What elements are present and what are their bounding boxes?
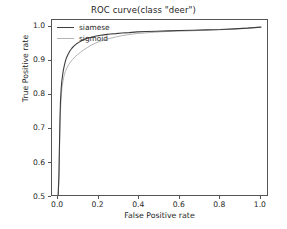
series-line-siamese bbox=[58, 27, 261, 196]
x-tick-label: 1.0 bbox=[245, 200, 275, 209]
y-tick-mark bbox=[48, 94, 51, 95]
x-tick-mark bbox=[57, 196, 58, 199]
y-tick-mark bbox=[48, 60, 51, 61]
y-tick-mark bbox=[48, 128, 51, 129]
chart-title: ROC curve(class "deer") bbox=[0, 5, 287, 15]
y-tick-label: 0.5 bbox=[19, 192, 45, 201]
legend-entry-siamese[interactable]: siamese bbox=[57, 23, 110, 32]
y-tick-mark bbox=[48, 162, 51, 163]
legend-swatch-sigmoid bbox=[57, 38, 74, 39]
plot-svg bbox=[52, 20, 268, 196]
x-axis-label: False Positive rate bbox=[51, 211, 268, 220]
legend-entry-sigmoid[interactable]: sigmoid bbox=[57, 34, 110, 43]
x-tick-label: 0.0 bbox=[42, 200, 72, 209]
legend-label-siamese: siamese bbox=[79, 23, 110, 32]
x-tick-mark bbox=[138, 196, 139, 199]
x-tick-mark bbox=[260, 196, 261, 199]
x-tick-mark bbox=[219, 196, 220, 199]
y-tick-mark bbox=[48, 26, 51, 27]
plot-area bbox=[51, 19, 268, 196]
x-tick-label: 0.8 bbox=[204, 200, 234, 209]
roc-curve-figure: ROC curve(class "deer") 0.00.20.40.60.81… bbox=[0, 0, 287, 229]
x-tick-mark bbox=[179, 196, 180, 199]
y-tick-label: 0.6 bbox=[19, 158, 45, 167]
x-tick-label: 0.6 bbox=[164, 200, 194, 209]
x-tick-mark bbox=[98, 196, 99, 199]
y-axis-label: True Positive rate bbox=[21, 9, 30, 129]
x-tick-label: 0.4 bbox=[123, 200, 153, 209]
series-line-sigmoid bbox=[58, 27, 261, 196]
legend-swatch-siamese bbox=[57, 27, 74, 28]
legend-label-sigmoid: sigmoid bbox=[79, 34, 108, 43]
x-tick-label: 0.2 bbox=[83, 200, 113, 209]
legend: siamese sigmoid bbox=[57, 23, 110, 43]
y-tick-mark bbox=[48, 196, 51, 197]
